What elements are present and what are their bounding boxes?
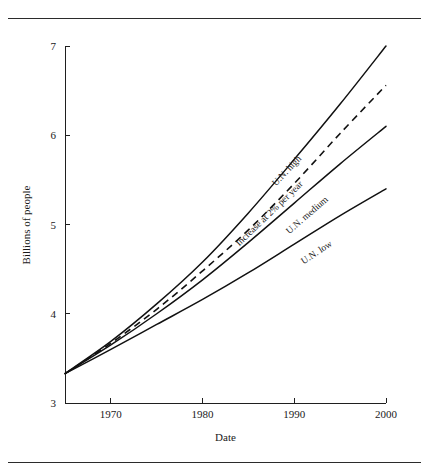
x-axis-ticks: [111, 398, 386, 403]
x-tick-label: 2000: [375, 408, 398, 420]
series-curve: [65, 46, 386, 374]
y-tick-label: 3: [51, 397, 57, 409]
x-axis-tick-labels: 1970198019902000: [100, 408, 398, 420]
x-axis-title: Date: [215, 431, 236, 443]
chart-axes: [65, 46, 386, 403]
series-curve: [65, 85, 386, 373]
series-curve: [65, 189, 386, 374]
y-tick-label: 5: [51, 219, 57, 231]
x-tick-label: 1970: [100, 408, 123, 420]
chart-series-curves: [65, 46, 386, 374]
y-tick-label: 4: [51, 308, 57, 320]
population-projection-chart: 34567 1970198019902000 U.N. highIncrease…: [0, 0, 429, 473]
x-tick-label: 1980: [192, 408, 215, 420]
series-curve: [65, 126, 386, 373]
y-axis-title: Billions of people: [20, 185, 32, 264]
y-axis-ticks: [65, 46, 70, 403]
y-axis-tick-labels: 34567: [51, 40, 57, 409]
x-tick-label: 1990: [283, 408, 306, 420]
y-tick-label: 7: [51, 40, 57, 52]
series-label: U.N. low: [299, 239, 334, 267]
chart-series-labels: U.N. highIncrease at 2% per yearU.N. med…: [234, 153, 334, 266]
series-label: U.N. medium: [284, 194, 330, 236]
figure-root: 34567 1970198019902000 U.N. highIncrease…: [0, 0, 429, 473]
y-tick-label: 6: [51, 129, 57, 141]
